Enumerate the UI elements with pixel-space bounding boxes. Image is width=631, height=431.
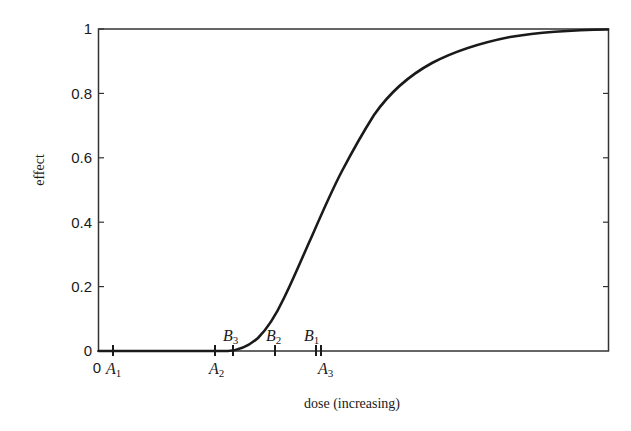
dose-response-chart: 0 0.2 0.4 0.6 0.8 1 effect dose (increas… — [0, 0, 631, 431]
b-labels: B3 B2 B1 — [223, 327, 319, 346]
y-tick-0: 0 — [84, 342, 92, 359]
plot-frame — [99, 29, 609, 351]
label-B2: B2 — [266, 327, 281, 346]
label-B1: B1 — [304, 327, 319, 346]
label-A3: A3 — [317, 360, 334, 379]
y-tick-0.6: 0.6 — [71, 149, 92, 166]
dose-response-curve — [99, 30, 609, 352]
y-ticks-left — [99, 29, 105, 287]
y-tick-0.4: 0.4 — [71, 214, 92, 231]
label-B3: B3 — [223, 327, 239, 346]
x-axis-label: dose (increasing) — [304, 396, 400, 412]
y-ticks-right — [603, 93, 609, 286]
x-origin-label: 0 — [93, 359, 101, 376]
label-A2: A2 — [208, 360, 224, 379]
y-tick-0.2: 0.2 — [71, 278, 92, 295]
y-tick-labels: 0 0.2 0.4 0.6 0.8 1 — [71, 20, 92, 359]
label-A1: A1 — [105, 360, 121, 379]
a-labels: A1 A2 A3 — [105, 360, 334, 379]
y-tick-0.8: 0.8 — [71, 85, 92, 102]
y-tick-1: 1 — [84, 20, 92, 37]
y-axis-label: effect — [32, 154, 47, 186]
